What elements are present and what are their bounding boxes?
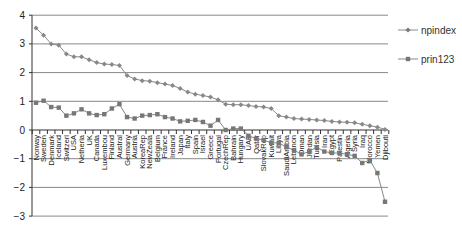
data-point-npindex <box>162 82 167 87</box>
data-point-npindex <box>140 78 145 83</box>
data-point-prin123 <box>292 148 296 152</box>
data-point-npindex <box>307 117 312 122</box>
data-point-prin123 <box>223 128 227 132</box>
data-point-npindex <box>170 83 175 88</box>
data-point-prin123 <box>132 116 136 120</box>
data-point-prin123 <box>49 105 53 109</box>
data-point-prin123 <box>231 126 235 130</box>
data-point-prin123 <box>208 123 212 127</box>
y-axis-ticks: 43210−1−2−3 <box>14 10 32 222</box>
data-point-npindex <box>79 54 84 59</box>
data-point-prin123 <box>239 126 243 130</box>
legend-label: npindex <box>421 25 456 36</box>
diamond-marker-icon <box>406 28 411 33</box>
data-point-prin123 <box>34 101 38 105</box>
legend-item-prin123: prin123 <box>398 54 455 65</box>
data-point-prin123 <box>261 138 265 142</box>
data-point-prin123 <box>345 152 349 156</box>
data-point-prin123 <box>102 112 106 116</box>
data-point-prin123 <box>170 116 174 120</box>
data-point-npindex <box>178 86 183 91</box>
data-point-npindex <box>94 60 99 65</box>
data-point-prin123 <box>140 113 144 117</box>
data-point-npindex <box>238 102 243 107</box>
data-point-npindex <box>284 115 289 120</box>
data-point-prin123 <box>375 171 379 175</box>
data-point-npindex <box>87 57 92 62</box>
data-point-prin123 <box>178 119 182 123</box>
data-point-prin123 <box>72 111 76 115</box>
data-point-npindex <box>261 105 266 110</box>
data-point-prin123 <box>315 145 319 149</box>
data-point-npindex <box>208 94 213 99</box>
data-point-prin123 <box>269 141 273 145</box>
data-point-prin123 <box>117 102 121 106</box>
y-tick-label: 3 <box>19 38 25 49</box>
data-point-npindex <box>352 120 357 125</box>
square-marker-icon <box>406 57 410 61</box>
data-point-npindex <box>329 119 334 124</box>
data-point-prin123 <box>330 151 334 155</box>
data-point-npindex <box>375 125 380 130</box>
y-tick-label: −2 <box>14 182 26 193</box>
x-axis-category-labels: NorwaySwedenDenmarkIcelandSwitzerlUSANet… <box>32 134 390 176</box>
data-point-npindex <box>223 102 228 107</box>
y-tick-label: −1 <box>14 153 26 164</box>
legend: npindex prin123 <box>398 25 456 65</box>
data-point-prin123 <box>216 118 220 122</box>
data-point-npindex <box>383 127 388 132</box>
data-point-prin123 <box>201 120 205 124</box>
axes <box>32 15 389 216</box>
data-point-prin123 <box>94 113 98 117</box>
data-point-prin123 <box>299 152 303 156</box>
data-point-npindex <box>314 117 319 122</box>
data-point-npindex <box>299 117 304 122</box>
y-tick-label: 0 <box>19 125 25 136</box>
data-point-npindex <box>102 61 107 66</box>
data-point-npindex <box>147 79 152 84</box>
legend-label: prin123 <box>421 54 455 65</box>
data-point-npindex <box>337 119 342 124</box>
data-point-prin123 <box>148 113 152 117</box>
data-point-npindex <box>71 54 76 59</box>
gridlines <box>32 15 388 216</box>
data-point-npindex <box>360 122 365 127</box>
data-point-prin123 <box>383 200 387 204</box>
data-point-npindex <box>291 116 296 121</box>
chart-canvas: 43210−1−2−3 NorwaySwedenDenmarkIcelandSw… <box>0 0 462 231</box>
data-point-npindex <box>322 118 327 123</box>
data-point-prin123 <box>254 136 258 140</box>
data-point-prin123 <box>57 105 61 109</box>
data-point-prin123 <box>155 112 159 116</box>
data-point-prin123 <box>186 119 190 123</box>
data-point-prin123 <box>110 106 114 110</box>
data-point-prin123 <box>193 118 197 122</box>
data-point-prin123 <box>246 134 250 138</box>
data-point-npindex <box>132 76 137 81</box>
legend-item-npindex: npindex <box>398 25 456 36</box>
data-point-npindex <box>193 92 198 97</box>
data-point-npindex <box>109 62 114 67</box>
y-tick-label: 4 <box>19 10 25 21</box>
data-point-npindex <box>367 123 372 128</box>
data-point-npindex <box>185 90 190 95</box>
y-tick-label: 1 <box>19 96 25 107</box>
data-point-prin123 <box>284 145 288 149</box>
data-point-npindex <box>231 102 236 107</box>
y-tick-label: −3 <box>14 211 26 222</box>
line-chart: 43210−1−2−3 NorwaySwedenDenmarkIcelandSw… <box>0 0 462 231</box>
data-point-prin123 <box>79 107 83 111</box>
data-point-npindex <box>345 120 350 125</box>
data-point-npindex <box>155 80 160 85</box>
data-series <box>34 26 388 204</box>
data-point-prin123 <box>277 141 281 145</box>
data-point-npindex <box>200 93 205 98</box>
data-point-npindex <box>246 103 251 108</box>
data-point-prin123 <box>322 149 326 153</box>
data-point-prin123 <box>360 161 364 165</box>
data-point-prin123 <box>307 149 311 153</box>
x-category-label: Djibouti <box>381 135 390 160</box>
data-point-prin123 <box>41 99 45 103</box>
data-point-prin123 <box>64 113 68 117</box>
data-point-npindex <box>254 104 259 109</box>
